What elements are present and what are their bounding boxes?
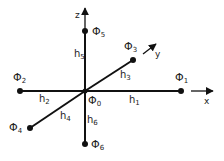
node-phi5 — [82, 28, 88, 34]
node-phi1 — [178, 88, 184, 94]
edges — [20, 31, 181, 144]
label-h6: h6 — [87, 114, 98, 127]
label-phi4: Φ4 — [9, 121, 23, 135]
node-phi0 — [83, 89, 88, 94]
y-axis-label: y — [155, 49, 161, 59]
label-h4: h4 — [60, 110, 71, 123]
label-h2: h2 — [39, 93, 50, 106]
label-h5: h5 — [74, 48, 85, 61]
node-phi2 — [17, 88, 23, 94]
label-h1: h1 — [129, 94, 140, 107]
stencil-diagram: z x y Φ0 Φ1 Φ2 Φ3 Φ4 Φ5 Φ6 h1 h2 h3 h4 h… — [0, 0, 224, 161]
label-h3: h3 — [120, 69, 131, 82]
z-axis-label: z — [75, 10, 80, 20]
nodes — [17, 28, 184, 147]
label-phi3: Φ3 — [124, 40, 137, 54]
label-phi2: Φ2 — [13, 71, 26, 85]
node-phi3 — [130, 57, 136, 63]
node-labels: Φ0 Φ1 Φ2 Φ3 Φ4 Φ5 Φ6 — [9, 25, 188, 152]
node-phi4 — [27, 125, 33, 131]
label-phi1: Φ1 — [175, 71, 188, 85]
label-phi5: Φ5 — [92, 25, 105, 39]
label-phi6: Φ6 — [91, 138, 105, 152]
label-phi0: Φ0 — [88, 94, 101, 108]
node-phi6 — [82, 141, 88, 147]
x-axis-label: x — [204, 96, 210, 106]
